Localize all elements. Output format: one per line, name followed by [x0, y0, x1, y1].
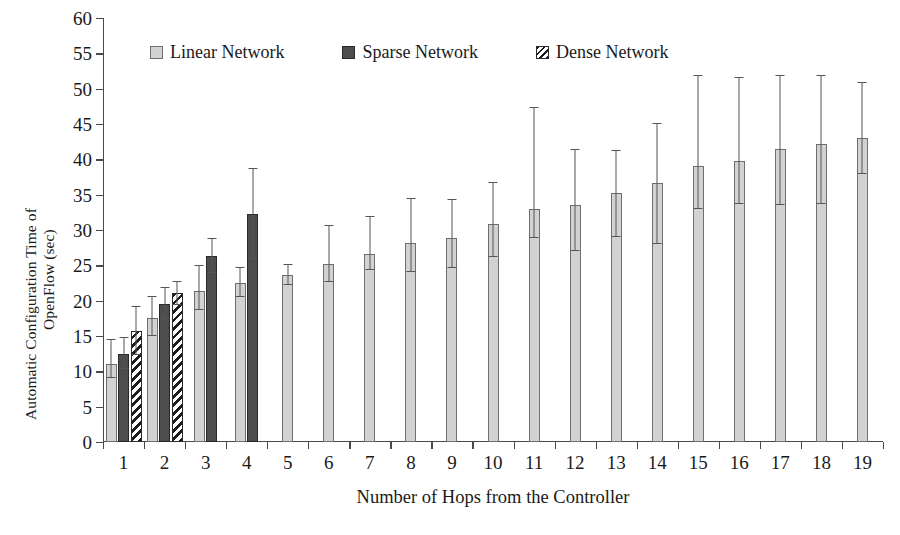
error-bar-cap-top: [248, 168, 257, 169]
y-tick-mark: [96, 442, 103, 443]
error-bar-cap-top: [612, 150, 621, 151]
error-bar-cap-bottom: [195, 309, 204, 310]
y-axis-title-line-2: OpenFlow (sec): [40, 229, 58, 330]
x-tick-label: 7: [365, 453, 375, 472]
x-tick-label: 13: [607, 453, 626, 472]
x-tick-mark: [226, 442, 227, 449]
dense-swatch-icon: [536, 46, 549, 59]
error-bar-cap-bottom: [817, 203, 826, 204]
y-tick-mark: [96, 265, 103, 266]
x-tick-label: 9: [447, 453, 457, 472]
error-bar-cap-top: [694, 75, 703, 76]
error-bar-cap-bottom: [324, 281, 333, 282]
bar-linear-hop-5: [282, 275, 293, 442]
y-tick-label: 10: [73, 362, 92, 381]
x-tick-mark: [596, 442, 597, 449]
error-bar-stem: [252, 168, 253, 258]
x-tick-label: 10: [484, 453, 503, 472]
y-tick-label: 15: [73, 327, 92, 346]
x-tick-label: 12: [566, 453, 585, 472]
legend-label-sparse: Sparse Network: [362, 42, 477, 63]
x-tick-mark: [103, 442, 104, 449]
bar-linear-hop-3: [194, 291, 205, 442]
x-tick-mark: [472, 442, 473, 449]
bar-linear-hop-19: [857, 138, 868, 442]
y-tick-label: 55: [73, 44, 92, 63]
x-tick-mark: [801, 442, 802, 449]
error-bar-cap-bottom: [694, 208, 703, 209]
error-bar-cap-bottom: [160, 318, 169, 319]
x-tick-mark: [349, 442, 350, 449]
error-bar-cap-top: [858, 82, 867, 83]
y-tick-mark: [96, 336, 103, 337]
error-bar-cap-bottom: [236, 296, 245, 297]
error-bar-cap-bottom: [248, 258, 257, 259]
error-bar-cap-bottom: [530, 237, 539, 238]
error-bar-cap-bottom: [283, 284, 292, 285]
error-bar-cap-bottom: [776, 204, 785, 205]
plot-area: 051015202530354045505560 123456789101112…: [103, 18, 883, 442]
bar-linear-hop-7: [364, 254, 375, 442]
error-bar-stem: [575, 149, 576, 251]
x-tick-label: 3: [201, 453, 211, 472]
error-bar-cap-bottom: [447, 267, 456, 268]
error-bar-cap-bottom: [653, 243, 662, 244]
error-bar-stem: [177, 281, 178, 304]
y-tick-mark: [96, 18, 103, 19]
error-bar-cap-top: [365, 216, 374, 217]
x-tick-mark: [185, 442, 186, 449]
error-bar-cap-top: [817, 75, 826, 76]
x-tick-mark: [760, 442, 761, 449]
bar-dense-hop-2: [172, 293, 183, 442]
error-bar-stem: [780, 75, 781, 204]
error-bar-cap-top: [148, 296, 157, 297]
x-tick-mark: [144, 442, 145, 449]
x-axis-title: Number of Hops from the Controller: [103, 487, 883, 508]
error-bar-cap-top: [776, 75, 785, 76]
error-bar-cap-bottom: [612, 236, 621, 237]
y-tick-label: 5: [83, 397, 93, 416]
y-tick-mark: [96, 124, 103, 125]
linear-swatch-icon: [150, 46, 163, 59]
error-bar-cap-top: [132, 306, 141, 307]
error-bar-stem: [328, 225, 329, 281]
x-tick-label: 14: [648, 453, 667, 472]
error-bar-cap-top: [119, 337, 128, 338]
y-tick-mark: [96, 301, 103, 302]
error-bar-cap-bottom: [735, 203, 744, 204]
error-bar-stem: [211, 238, 212, 272]
error-bar-stem: [369, 216, 370, 269]
error-bar-cap-top: [107, 339, 116, 340]
error-bar-cap-bottom: [406, 271, 415, 272]
x-tick-label: 4: [242, 453, 252, 472]
bar-linear-hop-6: [323, 264, 334, 442]
y-tick-label: 35: [73, 185, 92, 204]
y-tick-label: 0: [83, 433, 93, 452]
error-bar-cap-top: [195, 265, 204, 266]
x-tick-label: 6: [324, 453, 334, 472]
x-tick-mark: [719, 442, 720, 449]
x-tick-mark: [842, 442, 843, 449]
x-tick-label: 11: [525, 453, 543, 472]
error-bar-cap-top: [406, 198, 415, 199]
y-tick-label: 25: [73, 256, 92, 275]
x-tick-label: 19: [853, 453, 872, 472]
sparse-swatch-icon: [342, 46, 355, 59]
y-tick-mark: [96, 53, 103, 54]
error-bar-cap-bottom: [207, 272, 216, 273]
error-bar-cap-bottom: [107, 377, 116, 378]
error-bar-cap-top: [207, 238, 216, 239]
x-tick-label: 5: [283, 453, 293, 472]
error-bar-cap-top: [283, 264, 292, 265]
x-tick-mark: [267, 442, 268, 449]
error-bar-stem: [123, 337, 124, 367]
error-bar-stem: [739, 77, 740, 203]
bar-linear-hop-4: [235, 283, 246, 442]
error-bar-stem: [410, 198, 411, 271]
error-bar-stem: [199, 265, 200, 310]
legend: Linear Network Sparse Network Dense Netw…: [150, 42, 668, 63]
error-bar-stem: [164, 287, 165, 318]
y-axis-line: [103, 18, 104, 442]
x-tick-mark: [431, 442, 432, 449]
x-tick-label: 2: [160, 453, 170, 472]
